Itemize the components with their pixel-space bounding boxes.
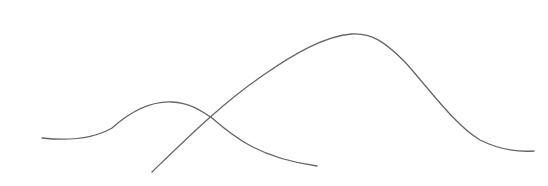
large-hump-curve [152, 34, 534, 172]
diagram-canvas [0, 0, 548, 186]
small-bump-curve [42, 102, 317, 166]
